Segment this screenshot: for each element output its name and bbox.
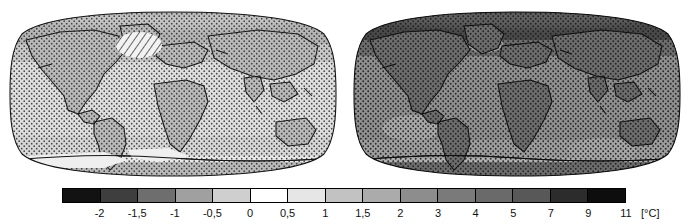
colorbar-tick-13: 9	[585, 206, 591, 220]
map-panel-left	[8, 10, 338, 178]
colorbar-segment-12	[513, 189, 551, 202]
colorbar-segment-6	[288, 189, 326, 202]
colorbar-segment-10	[438, 189, 476, 202]
colorbar-tick-4: 0	[247, 206, 253, 220]
colorbar-segment-3	[176, 189, 214, 202]
colorbar-tick-6: 1	[322, 206, 328, 220]
temperature-colorbar	[62, 188, 626, 203]
map-right-content	[352, 10, 682, 178]
colorbar-segment-5	[251, 189, 289, 202]
colorbar-segment-0	[63, 189, 101, 202]
stipple-overlay	[352, 10, 682, 178]
colorbar-tick-14: 11	[620, 206, 631, 220]
colorbar-tick-8: 2	[397, 206, 403, 220]
colorbar-segment-9	[401, 189, 439, 202]
colorbar-segment-2	[138, 189, 176, 202]
colorbar-tick-0: -2	[95, 206, 105, 220]
colorbar-legend: -2-1,5-1-0,500,511,523457911 [°C]	[0, 186, 688, 224]
colorbar-tick-7: 1,5	[355, 206, 370, 220]
colorbar-segment-7	[326, 189, 364, 202]
hatched-north-atlantic-region	[116, 32, 162, 58]
colorbar-tick-10: 4	[473, 206, 479, 220]
colorbar-segment-8	[363, 189, 401, 202]
map-left-svg	[8, 10, 338, 178]
colorbar-tick-labels: -2-1,5-1-0,500,511,523457911	[62, 206, 626, 222]
colorbar-segment-14	[588, 189, 625, 202]
map-right-svg	[352, 10, 682, 178]
map-panel-right	[352, 10, 682, 178]
climate-map-figure: -2-1,5-1-0,500,511,523457911 [°C]	[0, 0, 688, 224]
colorbar-tick-2: -1	[170, 206, 180, 220]
colorbar-unit-label: [°C]	[641, 206, 659, 220]
colorbar-tick-5: 0,5	[280, 206, 295, 220]
colorbar-tick-1: -1,5	[128, 206, 147, 220]
colorbar-tick-12: 7	[548, 206, 554, 220]
colorbar-segment-1	[101, 189, 139, 202]
colorbar-tick-11: 5	[510, 206, 516, 220]
colorbar-segment-13	[551, 189, 589, 202]
colorbar-tick-9: 3	[435, 206, 441, 220]
colorbar-segment-11	[476, 189, 514, 202]
colorbar-tick-3: -0,5	[203, 206, 222, 220]
map-left-content	[8, 10, 338, 178]
colorbar-segment-4	[213, 189, 251, 202]
